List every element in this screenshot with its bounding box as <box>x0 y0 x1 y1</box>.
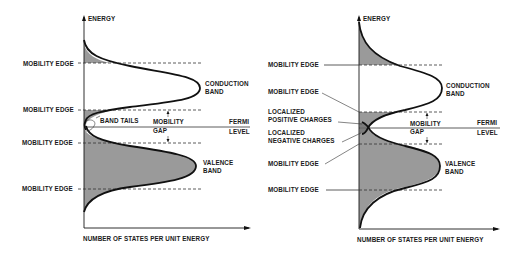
band-diagram-figure: ENERGY MOBILITY EDGE MOBILITY EDGE MOBIL… <box>0 0 523 260</box>
right-conduction-band-label: BAND <box>446 90 465 97</box>
left-conduction-band-label: BAND <box>205 88 224 95</box>
left-x-axis-label: NUMBER OF STATES PER UNIT ENERGY <box>83 235 210 242</box>
right-mobility-edge-label-1: MOBILITY EDGE <box>268 61 319 68</box>
right-x-axis-arrow-icon <box>493 227 500 231</box>
right-positive-charges-leader <box>338 122 362 124</box>
right-valence-band-shade <box>359 144 440 228</box>
left-fermi-label: FERMI <box>229 118 249 125</box>
right-mobility-edge-2-leader <box>322 93 359 112</box>
left-gap-arrow-up-icon <box>167 111 170 114</box>
right-mobility-edge-3-leader <box>325 144 359 164</box>
right-localized-positive-label-1: LOCALIZED <box>268 108 305 115</box>
right-localized-negative-label-2: NEGATIVE CHARGES <box>268 137 335 144</box>
left-panel: ENERGY MOBILITY EDGE MOBILITY EDGE MOBIL… <box>22 15 251 242</box>
right-gap-arrow-down-icon <box>426 140 429 143</box>
left-gap-arrow-down-icon <box>167 139 170 142</box>
right-mobility-edge-label-4: MOBILITY EDGE <box>268 186 319 193</box>
left-valence-band-shade <box>84 128 196 212</box>
right-negative-charges-leader <box>342 133 361 142</box>
right-y-axis-label: ENERGY <box>363 15 391 22</box>
left-x-axis-arrow-icon <box>244 226 251 230</box>
left-mobility-edge-label-1: MOBILITY EDGE <box>23 60 74 67</box>
right-localized-positive-label-2: POSITIVE CHARGES <box>268 116 332 123</box>
left-valence-label: VALENCE <box>203 159 233 166</box>
left-band-tails-label: BAND TAILS <box>100 117 139 124</box>
right-mobility-label: MOBILITY <box>410 120 442 127</box>
left-mobility-label: MOBILITY <box>153 118 185 125</box>
right-level-label: LEVEL <box>477 129 498 136</box>
left-valence-band-label: BAND <box>203 167 222 174</box>
left-level-label: LEVEL <box>229 128 250 135</box>
left-gap-label: GAP <box>153 127 167 134</box>
right-fermi-label: FERMI <box>477 119 497 126</box>
left-mobility-edge-label-2: MOBILITY EDGE <box>23 106 74 113</box>
right-panel: ENERGY MOBILITY EDGE MOBILITY EDGE LOCAL… <box>268 15 500 243</box>
right-conduction-upper-shade <box>359 22 400 65</box>
left-conduction-label: CONDUCTION <box>205 80 249 87</box>
right-conduction-label: CONDUCTION <box>446 82 490 89</box>
right-valence-band-label: BAND <box>445 168 464 175</box>
right-gap-arrow-up-icon <box>426 113 429 116</box>
right-mobility-edge-label-3: MOBILITY EDGE <box>268 160 319 167</box>
right-y-axis-arrow-icon <box>357 15 361 21</box>
right-mobility-edge-label-2: MOBILITY EDGE <box>268 88 319 95</box>
left-y-axis-arrow-icon <box>82 15 86 21</box>
left-mobility-edge-label-3: MOBILITY EDGE <box>22 139 73 146</box>
right-gap-label: GAP <box>410 128 424 135</box>
right-x-axis-label: NUMBER OF STATES PER UNIT ENERGY <box>357 236 484 243</box>
left-y-axis-label: ENERGY <box>88 15 116 22</box>
left-mobility-edge-label-4: MOBILITY EDGE <box>22 185 73 192</box>
right-localized-negative-label-1: LOCALIZED <box>268 129 305 136</box>
right-valence-label: VALENCE <box>445 160 475 167</box>
